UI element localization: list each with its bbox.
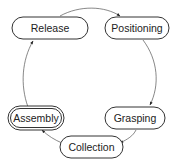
node-release-label: Release <box>31 22 70 34</box>
edge-assembly-to-release <box>23 41 33 107</box>
edge-collection-to-assembly <box>42 130 62 143</box>
edge-positioning-to-grasping <box>143 40 156 105</box>
node-grasping: Grasping <box>105 107 165 129</box>
node-assembly: Assembly <box>8 106 64 130</box>
cycle-diagram: Release Positioning Grasping Collection … <box>0 0 185 159</box>
node-positioning: Positioning <box>105 17 169 39</box>
node-collection-label: Collection <box>68 141 114 153</box>
edge-grasping-to-collection <box>120 130 136 143</box>
edge-release-to-positioning <box>60 8 120 16</box>
node-assembly-label: Assembly <box>13 112 59 124</box>
node-collection: Collection <box>60 136 123 158</box>
node-positioning-label: Positioning <box>111 22 163 34</box>
node-release: Release <box>12 17 88 39</box>
node-grasping-label: Grasping <box>114 112 157 124</box>
